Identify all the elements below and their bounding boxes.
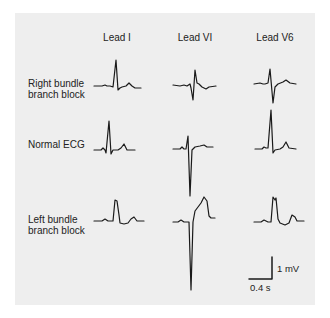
trace-normal-lead-i [94, 121, 135, 154]
scale-bar [249, 257, 272, 279]
trace-normal-lead-v1 [173, 136, 213, 196]
trace-lbbb-lead-i [94, 200, 144, 224]
scale-time-label: 0.4 s [250, 282, 271, 293]
trace-lbbb-lead-v6 [254, 197, 304, 225]
trace-normal-lead-v6 [255, 110, 296, 153]
trace-rbbb-lead-v1 [173, 70, 216, 100]
trace-rbbb-lead-v6 [254, 69, 296, 103]
scale-voltage-label: 1 mV [277, 263, 299, 274]
trace-lbbb-lead-v1 [173, 197, 215, 290]
trace-rbbb-lead-i [94, 60, 141, 90]
